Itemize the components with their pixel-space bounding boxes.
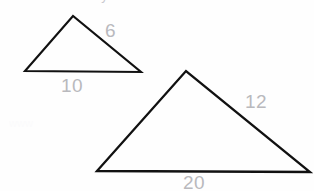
small-triangle-right-side-label: 6: [105, 21, 116, 40]
small-triangle-outline: [25, 16, 141, 72]
scanned-geometry-figure: Are not similar by AA. www 6 10 12 20: [0, 0, 314, 191]
large-triangle-outline: [97, 71, 310, 172]
large-triangle-base-label: 20: [183, 173, 205, 191]
small-triangle-base-label: 10: [61, 76, 83, 95]
large-triangle-right-side-label: 12: [245, 92, 267, 111]
